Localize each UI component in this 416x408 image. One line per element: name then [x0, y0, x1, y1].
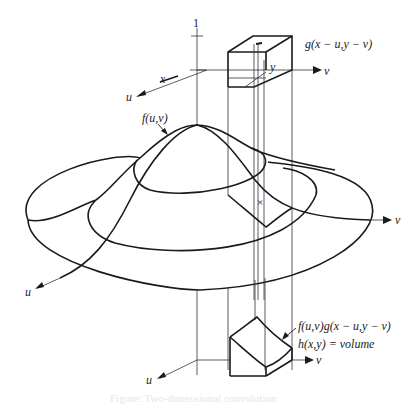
x-label: x — [159, 72, 166, 86]
convolution-diagram: 1 x u v y g(x − u,y − v) — [0, 0, 416, 408]
volume-solid — [230, 317, 292, 376]
u-label-top: u — [126, 90, 132, 104]
y-label-small: y — [269, 60, 276, 74]
v-label-top: v — [324, 64, 330, 78]
svg-text:×: × — [257, 196, 263, 208]
v-label-middle: v — [395, 213, 401, 227]
kernel-label: g(x − u,y − v) — [305, 37, 372, 51]
figure-caption: Figure: Two-dimensional convolution — [110, 392, 277, 404]
tick-label-1: 1 — [193, 16, 199, 30]
u-label-bottom: u — [146, 373, 152, 387]
u-label-middle: u — [25, 285, 31, 299]
v-label-bottom: v — [316, 353, 322, 367]
product-label: f(u,v)g(x − u,y − v) — [298, 319, 391, 333]
volume-label: h(x,y) = volume — [298, 337, 375, 351]
surface-label: f(u,v) — [142, 111, 168, 125]
